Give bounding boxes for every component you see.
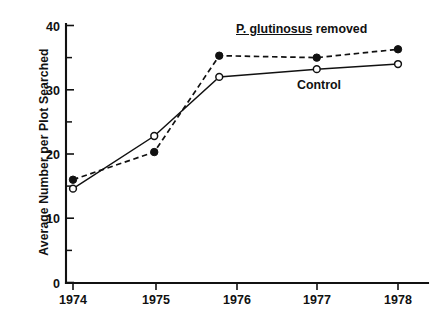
x-tick-label-1977: 1977 [303, 293, 331, 307]
control-point-1977 [313, 66, 320, 73]
removed-point-1976 [216, 52, 223, 59]
control-point-1978 [395, 61, 402, 68]
annotation-removed-label: P. glutinosus removed [236, 22, 367, 36]
annotation-removed-suffix: removed [312, 22, 367, 36]
control-line [73, 64, 398, 189]
series-control [70, 61, 402, 192]
control-point-1976 [216, 74, 223, 81]
control-point-1975 [151, 133, 158, 140]
removed-point-1975 [151, 148, 158, 155]
x-axis: 1974 1975 1976 1977 1978 [59, 283, 428, 307]
x-tick-label-1978: 1978 [384, 293, 412, 307]
x-tick-label-1974: 1974 [59, 293, 87, 307]
y-axis-title: Average Number per Plot Searched [37, 22, 51, 282]
annotation-control-label: Control [297, 78, 341, 92]
chart-figure: 40 30 20 10 0 1974 1975 1976 1977 1978 [0, 0, 431, 326]
removed-point-1978 [394, 46, 401, 53]
annotation-removed-species: P. glutinosus [236, 22, 312, 36]
line-chart-canvas: 40 30 20 10 0 1974 1975 1976 1977 1978 [0, 0, 431, 326]
control-markers [70, 61, 402, 192]
x-tick-label-1976: 1976 [223, 293, 251, 307]
control-point-1974 [70, 185, 77, 192]
x-tick-label-1975: 1975 [142, 293, 170, 307]
removed-point-1974 [69, 176, 76, 183]
removed-line [73, 49, 398, 179]
removed-point-1977 [313, 54, 320, 61]
y-tick-label-0: 0 [53, 277, 60, 291]
